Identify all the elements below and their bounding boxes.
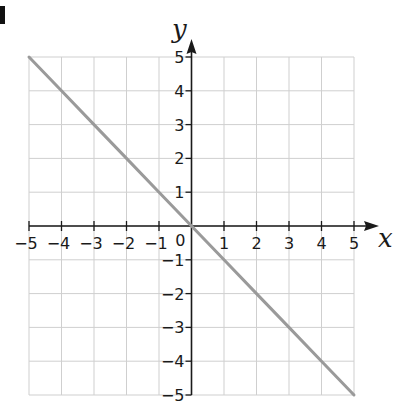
x-axis-arrow-icon <box>364 221 379 231</box>
x-tick-label: 3 <box>284 234 294 253</box>
y-tick-label: 1 <box>174 183 184 202</box>
y-tick-label: −5 <box>161 386 185 405</box>
x-tick-label: −2 <box>112 234 136 253</box>
x-tick-label: −5 <box>14 234 38 253</box>
y-tick-label: 5 <box>174 48 184 67</box>
coordinate-plane: −5−4−3−2−11234554321−1−2−3−4−50 x y <box>0 0 408 409</box>
origin-label: 0 <box>175 231 185 250</box>
y-tick-label: 3 <box>174 116 184 135</box>
y-axis-label: y <box>171 14 187 44</box>
y-tick-label: 4 <box>174 82 184 101</box>
x-tick-label: 1 <box>219 234 229 253</box>
x-axis-label: x <box>378 223 393 253</box>
y-tick-label: −4 <box>161 352 185 371</box>
x-tick-label: 5 <box>349 234 359 253</box>
y-axis-arrow-icon <box>187 39 197 54</box>
y-tick-label: 2 <box>174 149 184 168</box>
x-tick-label: −4 <box>47 234 71 253</box>
axes <box>29 39 379 395</box>
y-tick-label: −2 <box>161 285 185 304</box>
x-tick-label: 4 <box>316 234 326 253</box>
x-tick-label: −3 <box>79 234 103 253</box>
y-tick-label: −3 <box>161 318 185 337</box>
x-tick-label: 2 <box>251 234 261 253</box>
y-tick-label: −1 <box>161 251 185 270</box>
